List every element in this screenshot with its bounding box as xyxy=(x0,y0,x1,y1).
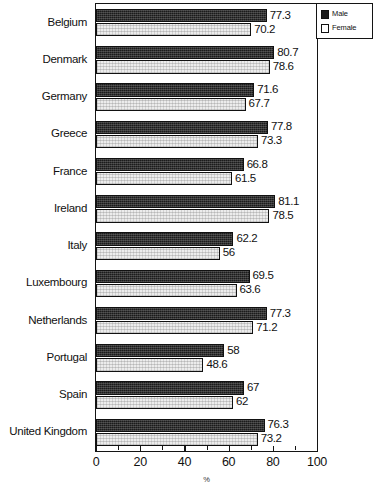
bar-male xyxy=(96,9,267,22)
legend-item-female: Female xyxy=(321,21,369,35)
x-tick-label: 100 xyxy=(307,456,327,469)
x-tick-major xyxy=(140,446,141,452)
category-label: Ireland xyxy=(54,203,87,215)
bar-female xyxy=(96,358,203,371)
category-label: Netherlands xyxy=(28,315,87,327)
category-label: Belgium xyxy=(48,17,87,29)
legend-label-male: Male xyxy=(332,10,348,18)
category-label: Portugal xyxy=(47,352,87,364)
bar-female xyxy=(96,247,220,260)
bar-value-female: 67.7 xyxy=(249,98,270,110)
bar-male xyxy=(96,158,244,171)
bar-male xyxy=(96,46,274,59)
bar-male xyxy=(96,195,275,208)
x-tick-major xyxy=(317,446,318,452)
bar-female xyxy=(96,98,246,111)
bar-value-male: 77.8 xyxy=(271,121,292,133)
bar-value-male: 58 xyxy=(227,345,239,357)
x-tick-major xyxy=(273,446,274,452)
x-tick-minor xyxy=(162,446,163,450)
category-label: Italy xyxy=(67,240,87,252)
bar-female xyxy=(96,172,232,185)
bar-male xyxy=(96,83,254,96)
bar-value-female: 62 xyxy=(236,396,248,408)
x-tick-minor xyxy=(207,446,208,450)
x-tick-label: 20 xyxy=(134,456,147,469)
category-label: Greece xyxy=(51,128,87,140)
x-tick-minor xyxy=(295,446,296,450)
category-label: Germany xyxy=(42,91,87,103)
bar-female xyxy=(96,396,233,409)
bar-value-male: 62.2 xyxy=(236,233,257,245)
category-label: Denmark xyxy=(42,54,87,66)
x-tick-label: 40 xyxy=(178,456,191,469)
bar-female xyxy=(96,60,270,73)
x-tick-major xyxy=(229,446,230,452)
bar-value-female: 78.6 xyxy=(273,61,294,73)
category-label: Spain xyxy=(59,389,87,401)
bar-female xyxy=(96,135,258,148)
bar-value-male: 80.7 xyxy=(277,47,298,59)
bar-male xyxy=(96,121,268,134)
legend-label-female: Female xyxy=(332,24,356,32)
bar-female xyxy=(96,23,251,36)
bar-value-female: 73.3 xyxy=(261,135,282,147)
x-axis-tick-labels: 020406080100 xyxy=(0,456,376,474)
legend: Male Female xyxy=(316,3,373,39)
bar-value-female: 78.5 xyxy=(272,210,293,222)
legend-swatch-female-icon xyxy=(321,24,329,33)
x-tick-major xyxy=(184,446,185,452)
bar-value-male: 77.3 xyxy=(270,308,291,320)
category-label: United Kingdom xyxy=(9,426,87,438)
bar-female xyxy=(96,433,258,446)
bar-female xyxy=(96,209,269,222)
bar-value-female: 61.5 xyxy=(235,173,256,185)
x-tick-label: 60 xyxy=(222,456,235,469)
x-tick-label: 0 xyxy=(93,456,100,469)
bar-value-female: 73.2 xyxy=(261,433,282,445)
x-tick-minor xyxy=(118,446,119,450)
bar-value-male: 67 xyxy=(247,382,259,394)
bar-male xyxy=(96,307,267,320)
bar-value-female: 56 xyxy=(223,247,235,259)
category-axis-labels: BelgiumDenmarkGermanyGreeceFranceIreland… xyxy=(0,4,91,451)
x-tick-major xyxy=(96,446,97,452)
bar-male xyxy=(96,419,265,432)
bar-male xyxy=(96,381,244,394)
bar-female xyxy=(96,321,253,334)
bar-value-female: 70.2 xyxy=(254,24,275,36)
x-axis-title: % xyxy=(95,476,318,484)
bar-female xyxy=(96,284,237,297)
x-tick-label: 80 xyxy=(266,456,279,469)
bar-value-female: 71.2 xyxy=(256,322,277,334)
bar-male xyxy=(96,270,250,283)
bar-value-male: 77.3 xyxy=(270,10,291,22)
bar-value-female: 48.6 xyxy=(206,359,227,371)
x-tick-minor xyxy=(251,446,252,450)
category-label: France xyxy=(53,166,87,178)
bars-layer: 77.370.280.778.671.667.777.873.366.861.5… xyxy=(96,4,317,451)
bar-value-female: 63.6 xyxy=(240,284,261,296)
bar-male xyxy=(96,344,224,357)
bar-value-male: 76.3 xyxy=(268,419,289,431)
legend-item-male: Male xyxy=(321,7,369,21)
category-label: Luxembourg xyxy=(26,277,87,289)
bar-value-male: 71.6 xyxy=(257,84,278,96)
bar-male xyxy=(96,232,233,245)
legend-swatch-male-icon xyxy=(321,10,329,19)
bar-chart: BelgiumDenmarkGermanyGreeceFranceIreland… xyxy=(0,0,376,492)
bar-value-male: 69.5 xyxy=(253,270,274,282)
bar-value-male: 81.1 xyxy=(278,196,299,208)
bar-value-male: 66.8 xyxy=(247,159,268,171)
